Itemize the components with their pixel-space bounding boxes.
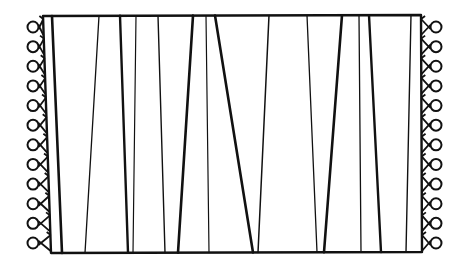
fringe-tassel-loop <box>28 238 39 249</box>
fringe-strand <box>39 193 50 212</box>
fringe-tassel-loop <box>431 238 442 249</box>
stripe-line <box>120 16 128 253</box>
fringe-tassel-loop <box>28 139 39 150</box>
stripe-line <box>52 16 62 253</box>
fringe-tassel-loop <box>431 120 442 131</box>
rug-drawing <box>0 0 470 271</box>
fringe-tassel-loop <box>28 100 39 111</box>
fringe-tassel-loop <box>431 41 442 52</box>
rug-stripes <box>52 15 411 253</box>
fringe-strand <box>422 232 431 251</box>
fringe-tassel-loop <box>431 100 442 111</box>
fringe-strand <box>421 55 430 74</box>
fringe-strand <box>422 173 431 192</box>
fringe-tassel-loop <box>28 22 39 33</box>
fringe-strand <box>422 193 431 212</box>
fringe-strand <box>421 36 430 55</box>
fringe-tassel-loop <box>431 61 442 72</box>
fringe-strand <box>422 212 431 231</box>
fringe-tassel-loop <box>28 120 39 131</box>
right-fringe <box>421 16 441 251</box>
fringe-tassel-loop <box>28 198 39 209</box>
stripe-line <box>206 16 209 253</box>
fringe-strand <box>421 16 430 35</box>
rug-illustration <box>0 0 470 271</box>
stripe-line <box>178 16 193 253</box>
fringe-strand <box>39 173 49 192</box>
fringe-strand <box>421 75 430 94</box>
fringe-tassel-loop <box>28 179 39 190</box>
stripe-line <box>215 16 253 253</box>
stripe-line <box>307 15 317 252</box>
stripe-line <box>359 15 361 252</box>
fringe-strand <box>39 212 51 231</box>
stripe-line <box>324 15 342 252</box>
stripe-line <box>133 16 136 253</box>
fringe-tassel-loop <box>431 179 442 190</box>
fringe-strand <box>421 95 430 114</box>
fringe-tassel-loop <box>28 61 39 72</box>
fringe-tassel-loop <box>431 22 442 33</box>
fringe-tassel-loop <box>28 159 39 170</box>
fringe-tassel-loop <box>431 218 442 229</box>
stripe-line <box>258 15 269 252</box>
stripe-line <box>158 16 165 253</box>
stripe-line <box>369 15 381 252</box>
fringe-tassel-loop <box>28 41 39 52</box>
fringe-tassel-loop <box>431 198 442 209</box>
fringe-tassel-loop <box>431 80 442 91</box>
fringe-strand <box>422 153 431 172</box>
stripe-line <box>406 15 411 252</box>
fringe-strand <box>421 114 430 133</box>
stripe-line <box>85 16 99 253</box>
fringe-tassel-loop <box>431 159 442 170</box>
fringe-tassel-loop <box>431 139 442 150</box>
rug-border <box>43 15 422 253</box>
fringe-strand <box>422 134 431 153</box>
fringe-strand <box>39 232 51 251</box>
fringe-tassel-loop <box>28 218 39 229</box>
fringe-tassel-loop <box>28 80 39 91</box>
